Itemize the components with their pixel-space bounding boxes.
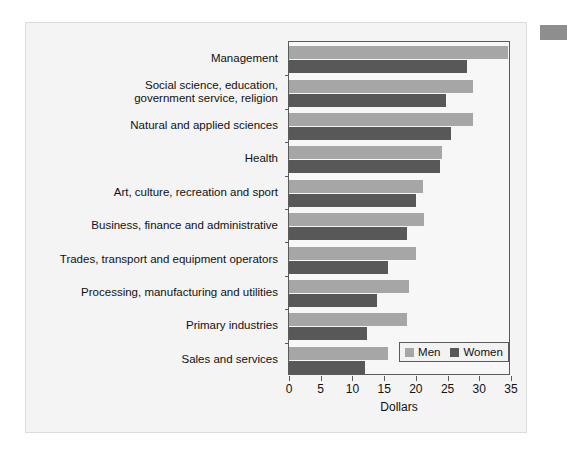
- x-axis-tick: [321, 376, 322, 381]
- x-axis-tick-label: 35: [504, 382, 517, 396]
- legend-entry-women: Women: [450, 346, 502, 358]
- bar-women: [289, 327, 367, 340]
- y-axis-tick: [285, 343, 289, 344]
- category-label: Trades, transport and equipment operator…: [60, 253, 278, 266]
- x-axis-tick-label: 0: [286, 382, 293, 396]
- category-label: Social science, education,government ser…: [134, 79, 278, 105]
- y-axis-tick: [285, 176, 289, 177]
- category-axis-labels: ManagementSocial science, education,gove…: [26, 41, 284, 375]
- category-label: Processing, manufacturing and utilities: [81, 286, 278, 299]
- bar-men: [289, 46, 508, 59]
- x-axis-tick-label: 25: [441, 382, 454, 396]
- category-label: Natural and applied sciences: [130, 119, 278, 132]
- legend-swatch-men-icon: [405, 348, 414, 357]
- bar-women: [289, 261, 388, 274]
- y-axis-tick: [285, 109, 289, 110]
- bar-men: [289, 347, 388, 360]
- bar-men: [289, 313, 407, 326]
- legend-entry-men: Men: [405, 346, 440, 358]
- category-label: Primary industries: [186, 319, 278, 332]
- bar-men: [289, 113, 473, 126]
- y-axis-tick: [285, 75, 289, 76]
- category-label: Health: [245, 152, 278, 165]
- x-axis-tick-label: 20: [409, 382, 422, 396]
- bar-women: [289, 361, 365, 374]
- x-axis-tick-label: 10: [346, 382, 359, 396]
- bar-men: [289, 80, 473, 93]
- category-label: Business, finance and administrative: [91, 219, 278, 232]
- x-axis-tick: [384, 376, 385, 381]
- x-axis-title: Dollars: [288, 400, 510, 414]
- legend-swatch-women-icon: [450, 348, 459, 357]
- bar-women: [289, 227, 407, 240]
- legend-label-women: Women: [463, 346, 502, 358]
- x-axis-tick: [352, 376, 353, 381]
- bar-women: [289, 127, 451, 140]
- x-axis-tick: [289, 376, 290, 381]
- x-axis-tick: [479, 376, 480, 381]
- bar-women: [289, 160, 440, 173]
- x-axis-tick-label: 15: [377, 382, 390, 396]
- x-axis-tick-label: 5: [317, 382, 324, 396]
- legend-label-men: Men: [418, 346, 440, 358]
- x-axis-tick: [448, 376, 449, 381]
- category-label: Management: [211, 52, 278, 65]
- y-axis-tick: [285, 142, 289, 143]
- y-axis-tick: [285, 242, 289, 243]
- category-label: Sales and services: [181, 353, 278, 366]
- bar-women: [289, 294, 377, 307]
- corner-decoration-block: [540, 25, 567, 40]
- y-axis-tick: [285, 209, 289, 210]
- chart-legend: Men Women: [399, 342, 509, 362]
- bar-men: [289, 146, 442, 159]
- bar-women: [289, 194, 416, 207]
- bar-men: [289, 247, 416, 260]
- y-axis-tick: [285, 276, 289, 277]
- bar-men: [289, 213, 424, 226]
- bar-men: [289, 280, 409, 293]
- x-axis-tick: [511, 376, 512, 381]
- category-label: Art, culture, recreation and sport: [114, 186, 278, 199]
- chart-figure-panel: ManagementSocial science, education,gove…: [25, 22, 527, 433]
- bar-men: [289, 180, 423, 193]
- bar-women: [289, 60, 467, 73]
- plot-area: 05101520253035: [288, 41, 510, 375]
- x-axis-tick-label: 30: [473, 382, 486, 396]
- x-axis-tick: [416, 376, 417, 381]
- y-axis-tick: [285, 309, 289, 310]
- bar-women: [289, 94, 446, 107]
